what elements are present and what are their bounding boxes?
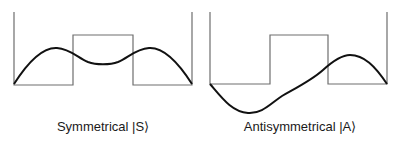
symmetrical-label: Symmetrical |S⟩	[57, 119, 149, 134]
double-well-potential	[14, 12, 192, 85]
double-well-potential	[210, 12, 387, 84]
symmetric-panel	[14, 12, 192, 85]
symmetric-wavefunction-curve	[14, 48, 192, 84]
antisymmetrical-label: Antisymmetrical |A⟩	[244, 119, 356, 134]
antisymmetric-panel	[210, 12, 387, 113]
